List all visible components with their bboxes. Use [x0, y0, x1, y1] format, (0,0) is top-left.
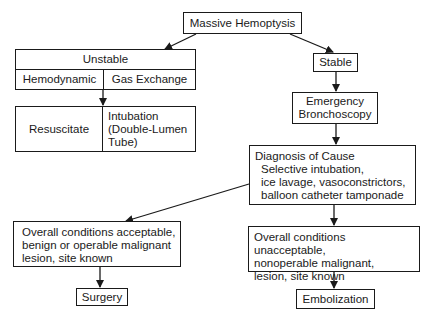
node-label: Gas Exchange	[112, 73, 187, 86]
node-emergency-bronchoscopy: Emergency Bronchoscopy	[292, 92, 378, 124]
node-diagnosis-of-cause: Diagnosis of Cause Selective intubation,…	[249, 145, 416, 205]
node-surgery: Surgery	[76, 288, 128, 306]
node-label: Hemodynamic	[23, 73, 97, 86]
node-massive-hemoptysis: Massive Hemoptysis	[183, 12, 302, 34]
node-unstable-actions: Resuscitate Intubation (Double-Lumen Tub…	[15, 106, 196, 152]
unstable-hemodynamic: Hemodynamic	[16, 70, 104, 89]
node-embolization: Embolization	[296, 289, 375, 309]
node-conditions-acceptable: Overall conditions acceptable, benign or…	[13, 221, 181, 267]
node-label: Surgery	[82, 291, 122, 304]
node-intubation: Intubation (Double-Lumen Tube)	[108, 110, 193, 151]
node-label: Stable	[319, 56, 352, 69]
unstable-header: Unstable	[16, 50, 195, 70]
diagnosis-methods: Selective intubation, ice lavage, vasoco…	[255, 163, 415, 202]
diagnosis-title: Diagnosis of Cause	[255, 150, 415, 163]
node-conditions-unacceptable: Overall conditions unacceptable, nonoper…	[248, 226, 420, 272]
node-label: Resuscitate	[29, 123, 89, 136]
unstable-gas-exchange: Gas Exchange	[104, 70, 195, 89]
node-label: Massive Hemoptysis	[190, 17, 295, 30]
node-label: Unstable	[83, 53, 128, 66]
node-unstable: Unstable Hemodynamic Gas Exchange	[15, 49, 196, 90]
node-label: Embolization	[303, 293, 369, 306]
node-stable: Stable	[313, 53, 358, 72]
node-resuscitate: Resuscitate	[16, 107, 103, 151]
